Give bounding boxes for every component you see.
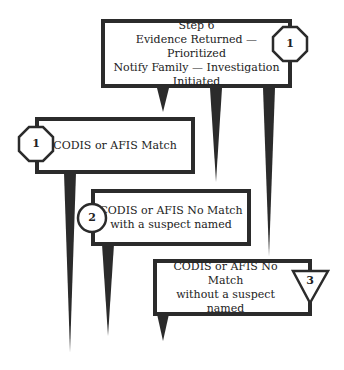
pointer-match [64, 173, 76, 352]
pointer-step-to-left [157, 88, 169, 112]
no-suspect-badge-number: 3 [300, 274, 320, 287]
outcome-no-suspect-line-1: CODIS or AFIS No Match [157, 260, 294, 288]
outcome-suspect-named-box: CODIS or AFIS No Match with a suspect na… [91, 189, 251, 246]
match-badge-number: 1 [26, 137, 46, 150]
outcome-suspect-named-line-2: with a suspect named [99, 218, 242, 232]
pointer-suspect-named [102, 244, 114, 336]
outcome-suspect-named-line-1: CODIS or AFIS No Match [99, 204, 242, 218]
outcome-no-suspect-box: CODIS or AFIS No Match without a suspect… [153, 259, 312, 316]
pointer-step-to-no-suspect [263, 88, 275, 256]
step-badge-number: 1 [280, 37, 300, 50]
outcome-no-suspect-line-2: without a suspect named [157, 288, 294, 316]
suspect-named-badge-number: 2 [82, 211, 102, 224]
pointer-no-suspect [157, 314, 169, 341]
step-line-3: Notify Family — Investigation Initiated [105, 61, 288, 89]
step-line-2: Evidence Returned — Prioritized [105, 33, 288, 61]
step-title: Step 6 [105, 19, 288, 33]
outcome-match-label: CODIS or AFIS Match [53, 139, 176, 153]
step-6-box: Step 6 Evidence Returned — Prioritized N… [101, 19, 292, 88]
pointer-step-to-match [210, 88, 222, 182]
outcome-match-box: CODIS or AFIS Match [35, 117, 195, 174]
